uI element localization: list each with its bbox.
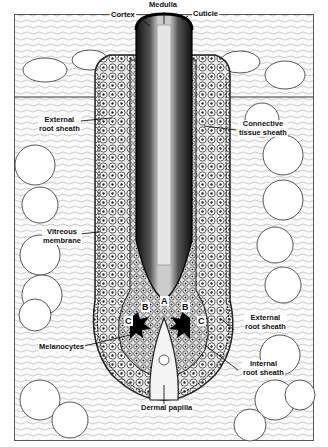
region-letter-b-right: B [181, 302, 190, 312]
label-connective-tissue-sheath: Connective tissue sheath [238, 120, 288, 137]
label-cortex: Cortex [110, 11, 136, 20]
label-melanocytes: Melanocytes [38, 343, 85, 352]
label-dermal-papilla: Dermal papilla [140, 404, 193, 413]
hair-follicle-illustration [0, 0, 328, 447]
label-external-root-sheath-top: External root sheath [38, 116, 81, 133]
region-letter-b-left: B [141, 302, 150, 312]
label-medulla: Medulla [148, 1, 178, 10]
label-vitreous-membrane: Vitreous membrane [42, 228, 82, 245]
label-cuticle: Cuticle [192, 10, 219, 19]
papilla-capillary [159, 355, 169, 365]
region-letter-a: A [160, 296, 169, 306]
region-letter-c-right: C [197, 316, 206, 326]
label-internal-root-sheath: Internal root sheath [242, 360, 285, 377]
medulla-core [157, 25, 171, 265]
region-letter-c-left: C [124, 316, 133, 326]
label-external-root-sheath-bottom: External root sheath [244, 314, 287, 331]
